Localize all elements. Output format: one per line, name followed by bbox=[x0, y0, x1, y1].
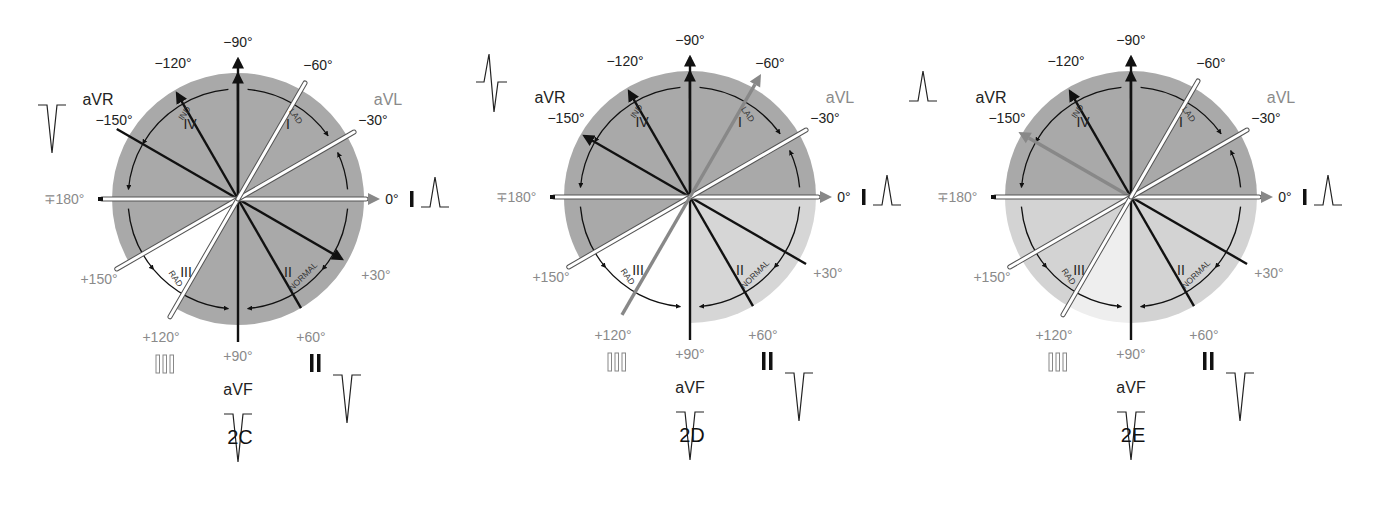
quadrant-iii: III bbox=[180, 264, 192, 280]
lead-label-iii-bar bbox=[170, 355, 174, 373]
angle-0: 0° bbox=[837, 189, 850, 205]
waveform-i bbox=[873, 175, 901, 205]
lead-label-ii-bar bbox=[310, 354, 314, 372]
angle-minus30: −30° bbox=[1251, 110, 1280, 126]
lead-i-arrowhead bbox=[1261, 191, 1273, 203]
lead-label-avf: aVF bbox=[223, 381, 253, 398]
angle-plus150: +150° bbox=[80, 271, 117, 287]
panel-2e: INDLADRADNORMALIIIIIIIV−90°−120°−60°−150… bbox=[909, 32, 1342, 460]
quadrant-i: I bbox=[286, 116, 290, 132]
angle-plus30: +30° bbox=[1254, 265, 1283, 281]
lead-i-arrowhead bbox=[820, 191, 832, 203]
waveform-ii bbox=[1226, 373, 1254, 421]
waveform-ii bbox=[785, 373, 813, 421]
quadrant-ii: II bbox=[284, 264, 292, 280]
lead-label-i bbox=[1303, 189, 1307, 205]
lead-label-iii-bar bbox=[622, 353, 626, 371]
angle-plus60: +60° bbox=[1189, 327, 1218, 343]
angle-0: 0° bbox=[385, 191, 398, 207]
angle-minus90: −90° bbox=[1116, 32, 1145, 48]
angle-plus150: +150° bbox=[973, 269, 1010, 285]
angle-0: 0° bbox=[1278, 189, 1291, 205]
angle-minus120: −120° bbox=[606, 53, 643, 69]
angle-plus60: +60° bbox=[296, 329, 325, 345]
lead-i-tail bbox=[991, 195, 996, 199]
quadrant-ii: II bbox=[736, 262, 744, 278]
angle-minus150: −150° bbox=[547, 110, 584, 126]
angle-minus120: −120° bbox=[154, 55, 191, 71]
quadrant-iv: IV bbox=[635, 114, 649, 130]
lead-label-avf: aVF bbox=[1116, 379, 1146, 396]
angle-minus150: −150° bbox=[988, 110, 1025, 126]
waveform-avr bbox=[38, 105, 66, 153]
angle-plus90: +90° bbox=[1116, 346, 1145, 362]
lead-label-avf: aVF bbox=[675, 379, 705, 396]
lead-label-ii-bar bbox=[769, 352, 773, 370]
angle-plus120: +120° bbox=[594, 327, 631, 343]
lead-label-ii-bar bbox=[1203, 352, 1207, 370]
lead-label-iii-bar bbox=[163, 355, 167, 373]
lead-label-ii-bar bbox=[1210, 352, 1214, 370]
lead-label-ii-bar bbox=[317, 354, 321, 372]
lead-label-iii-bar bbox=[615, 353, 619, 371]
angle-plus120: +120° bbox=[1035, 327, 1072, 343]
angle-minus60: −60° bbox=[303, 57, 332, 73]
angle-180: ∓180° bbox=[496, 189, 537, 205]
lead-label-iii-bar bbox=[156, 355, 160, 373]
angle-minus60: −60° bbox=[755, 55, 784, 71]
waveform-i bbox=[1314, 175, 1342, 205]
angle-minus120: −120° bbox=[1047, 53, 1084, 69]
angle-plus60: +60° bbox=[748, 327, 777, 343]
lead-label-iii-bar bbox=[1049, 353, 1053, 371]
hexaxial-figure: INDLADRADNORMALIIIIIIIV−90°−120°−60°−150… bbox=[0, 0, 1381, 531]
quadrant-ii: II bbox=[1177, 262, 1185, 278]
angle-minus60: −60° bbox=[1196, 55, 1225, 71]
waveform-i bbox=[421, 177, 449, 207]
lead-label-i bbox=[410, 191, 414, 207]
angle-plus120: +120° bbox=[142, 329, 179, 345]
lead-label-avl: aVL bbox=[826, 89, 855, 106]
quadrant-iii: III bbox=[1073, 262, 1085, 278]
lead-label-avr: aVR bbox=[534, 89, 565, 106]
lead-label-ii-bar bbox=[762, 352, 766, 370]
lead-label-iii-bar bbox=[1056, 353, 1060, 371]
lead-i-tail bbox=[550, 195, 555, 199]
lead-label-iii-bar bbox=[1063, 353, 1067, 371]
lead-label-avl: aVL bbox=[374, 91, 403, 108]
quadrant-iv: IV bbox=[1076, 114, 1090, 130]
panel-2c: INDLADRADNORMALIIIIIIIV−90°−120°−60°−150… bbox=[38, 34, 449, 462]
quadrant-i: I bbox=[738, 114, 742, 130]
waveform-avr bbox=[476, 54, 507, 112]
lead-label-avr: aVR bbox=[975, 89, 1006, 106]
panel-caption: 2C bbox=[227, 426, 253, 448]
lead-label-avr: aVR bbox=[82, 91, 113, 108]
lead-i-tail bbox=[98, 197, 103, 201]
angle-minus90: −90° bbox=[675, 32, 704, 48]
angle-180: ∓180° bbox=[937, 189, 978, 205]
panel-caption: 2D bbox=[679, 424, 705, 446]
angle-minus30: −30° bbox=[358, 112, 387, 128]
angle-plus150: +150° bbox=[532, 269, 569, 285]
angle-plus30: +30° bbox=[361, 267, 390, 283]
angle-180: ∓180° bbox=[44, 191, 85, 207]
quadrant-i: I bbox=[1179, 114, 1183, 130]
waveform-avr bbox=[909, 71, 937, 101]
angle-minus30: −30° bbox=[810, 110, 839, 126]
quadrant-iii: III bbox=[632, 262, 644, 278]
angle-plus30: +30° bbox=[813, 265, 842, 281]
panel-2d: INDLADRADNORMALIIIIIIIV−90°−120°−60°−150… bbox=[476, 32, 901, 460]
lead-label-i bbox=[862, 189, 866, 205]
hexaxial-diagram-canvas: INDLADRADNORMALIIIIIIIV−90°−120°−60°−150… bbox=[0, 0, 1381, 531]
panel-caption: 2E bbox=[1121, 424, 1145, 446]
quadrant-iv: IV bbox=[183, 116, 197, 132]
angle-minus150: −150° bbox=[95, 112, 132, 128]
angle-plus90: +90° bbox=[675, 346, 704, 362]
waveform-ii bbox=[333, 375, 361, 423]
angle-minus90: −90° bbox=[223, 34, 252, 50]
angle-plus90: +90° bbox=[223, 348, 252, 364]
lead-label-avl: aVL bbox=[1267, 89, 1296, 106]
lead-i-arrowhead bbox=[368, 193, 380, 205]
lead-label-iii-bar bbox=[608, 353, 612, 371]
